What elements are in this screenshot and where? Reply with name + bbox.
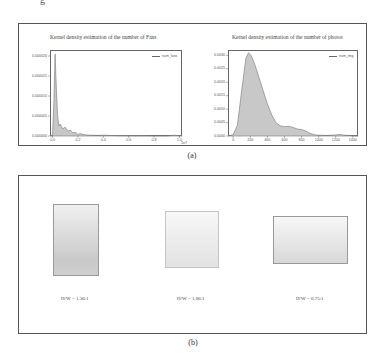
x-tick-label: 200 (242, 138, 258, 142)
aspect-ratio-sample-square (165, 211, 219, 268)
x-tick-label: 0.4 (95, 138, 111, 142)
y-tick-label: 0.000020 (21, 54, 47, 58)
right-chart-title: Kernel density estimation of the number … (232, 34, 343, 40)
left-chart-x-multiplier: 1e7 (176, 141, 192, 145)
y-tick-label: 0.000010 (21, 94, 47, 98)
left-chart-title: Kernel density estimation of the number … (50, 34, 156, 40)
x-tick-label: 800 (294, 138, 310, 142)
right-chart-legend: num_img (329, 54, 353, 58)
y-tick-label: 0.000005 (21, 114, 47, 118)
x-tick-label: 0.2 (70, 138, 86, 142)
legend-line-icon (329, 56, 337, 57)
x-tick-label: 0.6 (121, 138, 137, 142)
aspect-ratio-label-1: H/W = 1.36:1 (61, 296, 89, 301)
y-tick-label: 0.0000 (199, 134, 225, 138)
y-tick-label: 0.000015 (21, 74, 47, 78)
x-tick-label: 600 (276, 138, 292, 142)
aspect-ratio-sample-tall (53, 204, 99, 276)
right-chart-plot (228, 50, 358, 136)
left-chart-plot (50, 50, 182, 136)
legend-label: num_fans (162, 54, 177, 58)
y-tick-label: 0.0015 (199, 93, 225, 97)
x-tick-label: 1000 (311, 138, 327, 142)
legend-label: num_img (339, 54, 353, 58)
aspect-ratio-label-3: H/W = 0.75:1 (296, 296, 324, 301)
x-tick-label: 400 (259, 138, 275, 142)
x-tick-label: 0 (225, 138, 241, 142)
density-area (50, 54, 182, 136)
y-tick-label: 0.0005 (199, 120, 225, 124)
panel-b-caption: (b) (173, 338, 213, 347)
aspect-ratio-label-2: H/W = 1.06:1 (177, 296, 205, 301)
y-tick-label: 0.0025 (199, 66, 225, 70)
x-tick-label: 1200 (328, 138, 344, 142)
y-tick-label: 0.0030 (199, 53, 225, 57)
x-tick-label: 0.0 (45, 138, 61, 142)
y-tick-label: 0.0010 (199, 107, 225, 111)
cropped-text-fragment: g (40, 0, 45, 5)
y-tick-label: 0.000000 (21, 134, 47, 138)
y-tick-label: 0.0020 (199, 80, 225, 84)
aspect-ratio-sample-wide (273, 216, 348, 264)
x-tick-label: 0.8 (146, 138, 162, 142)
left-chart-legend: num_fans (152, 54, 177, 58)
legend-line-icon (152, 56, 160, 57)
density-area (228, 53, 358, 136)
x-tick-label: 1400 (345, 138, 361, 142)
panel-a-caption: (a) (172, 151, 212, 160)
